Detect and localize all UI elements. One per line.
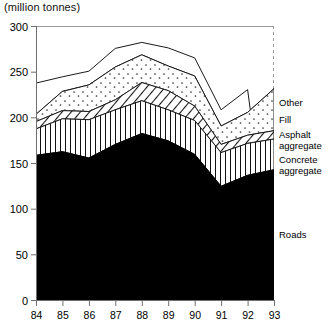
y-tick-label: 250	[10, 66, 28, 78]
y-tick-label: 150	[10, 158, 28, 170]
x-tick-label: 91	[216, 309, 228, 321]
x-tick-label: 93	[269, 309, 281, 321]
x-tick-label: 85	[57, 309, 69, 321]
y-tick-label: 0	[22, 295, 28, 307]
legend-label-asphalt-aggregate-line2: aggregate	[279, 140, 322, 151]
chart-legend: Other Fill Asphalt aggregate Concrete ag…	[279, 97, 322, 240]
x-tick-label: 86	[84, 309, 96, 321]
x-tick-label: 87	[110, 309, 122, 321]
chart-container: (million tonnes)	[0, 0, 329, 333]
legend-label-roads: Roads	[279, 229, 307, 240]
legend-label-concrete-aggregate: Concrete	[279, 154, 318, 165]
x-tick-label: 84	[31, 309, 43, 321]
legend-label-other: Other	[279, 97, 303, 108]
y-axis-ticks	[31, 27, 36, 301]
y-tick-label: 50	[16, 249, 28, 261]
x-axis-tick-labels: 84 85 86 87 88 89 90 91 92 93	[31, 309, 281, 321]
y-axis-tick-labels: 300 250 200 150 100 50 0	[10, 21, 28, 307]
stacked-areas	[36, 42, 274, 300]
legend-label-concrete-aggregate-line2: aggregate	[279, 165, 322, 176]
area-chart-plot: 300 250 200 150 100 50 0 84 85 86 87 8	[0, 0, 329, 333]
x-tick-label: 88	[136, 309, 148, 321]
x-tick-label: 90	[189, 309, 201, 321]
legend-label-asphalt-aggregate: Asphalt	[279, 129, 311, 140]
y-tick-label: 300	[10, 21, 28, 33]
x-tick-label: 92	[242, 309, 254, 321]
legend-label-fill: Fill	[279, 114, 291, 125]
x-tick-label: 89	[163, 309, 175, 321]
y-tick-label: 100	[10, 203, 28, 215]
y-tick-label: 200	[10, 112, 28, 124]
